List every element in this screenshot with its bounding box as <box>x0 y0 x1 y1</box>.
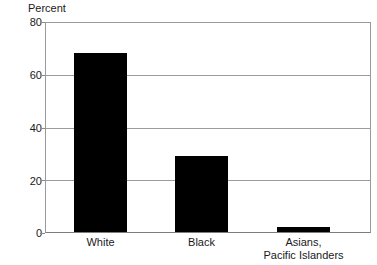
y-axis-tick-label-80: 80 <box>12 17 42 28</box>
bar-chart: Percent 80 60 40 20 0 White Black Asians… <box>0 0 377 265</box>
bar-white <box>74 53 127 232</box>
bar-asians-pacific-islanders <box>277 227 330 232</box>
y-axis-title: Percent <box>28 2 66 15</box>
x-axis-label-asians-pacific-islanders: Asians, Pacific Islanders <box>250 236 357 262</box>
x-axis-label-black-line1: Black <box>188 236 215 248</box>
x-axis-labels: White Black Asians, Pacific Islanders <box>45 236 371 265</box>
y-axis-tick-label-40: 40 <box>12 123 42 134</box>
y-axis-tick-label-60: 60 <box>12 70 42 81</box>
x-axis-label-asians-line2: Pacific Islanders <box>250 249 357 262</box>
x-axis-label-black: Black <box>157 236 246 249</box>
x-axis-label-white: White <box>56 236 145 249</box>
bar-black <box>175 156 228 232</box>
x-axis-label-asians-line1: Asians, <box>285 236 321 248</box>
y-axis-tick-label-20: 20 <box>12 176 42 187</box>
y-axis-tick-mark-0 <box>40 233 45 234</box>
x-axis-label-white-line1: White <box>86 236 114 248</box>
y-axis-tick-label-0: 0 <box>12 228 42 239</box>
bars-layer <box>45 22 371 233</box>
